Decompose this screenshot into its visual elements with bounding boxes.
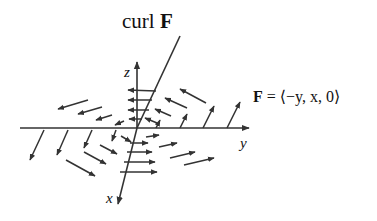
curl-arrows-upper — [128, 90, 156, 119]
title-bold-f: F — [160, 9, 173, 33]
curl-arrows-lower — [120, 143, 157, 172]
field-formula: F = ⟨−y, x, 0⟩ — [253, 88, 340, 106]
x-axis-label: x — [105, 190, 113, 206]
field-arrows-lower-right — [146, 135, 214, 165]
title-prefix: curl — [122, 9, 160, 33]
formula-rhs: = ⟨−y, x, 0⟩ — [263, 88, 341, 106]
x-axis-upper — [137, 36, 180, 128]
axes — [20, 36, 249, 204]
field-arrows-upper-right — [145, 89, 206, 123]
field-arrows-left-axis — [30, 130, 116, 160]
formula-lhs: F — [253, 88, 263, 105]
z-axis-label: z — [123, 64, 130, 80]
y-axis-label: y — [238, 135, 247, 151]
diagram-title: curl F — [122, 9, 173, 33]
field-arrows-upper-left — [58, 100, 124, 125]
curl-vector-field-diagram: curl F F = ⟨−y, x, 0⟩ z y x — [0, 0, 377, 221]
field-arrows-lower-left — [66, 136, 131, 176]
